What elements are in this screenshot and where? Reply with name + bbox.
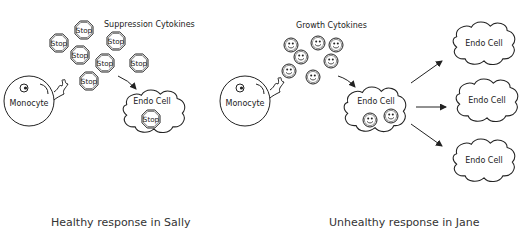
stop-sign-icon: Stop xyxy=(75,21,93,39)
stop-sign-icon: Stop xyxy=(142,110,160,128)
smiley-face-icon xyxy=(324,54,338,68)
smiley-face-icon xyxy=(329,38,343,52)
smiley-face-icon xyxy=(306,70,320,84)
svg-text:Stop: Stop xyxy=(51,39,68,48)
endo-cell-middle: Endo Cell xyxy=(456,79,518,122)
arrow-icon xyxy=(411,124,442,146)
monocyte-label: Monocyte xyxy=(10,99,49,108)
arrow-icon xyxy=(338,76,355,87)
svg-text:Stop: Stop xyxy=(81,77,98,86)
endo-cell-label: Endo Cell xyxy=(357,97,395,106)
smiley-face-icon xyxy=(294,50,308,64)
endo-cell-bottom: Endo Cell xyxy=(453,139,515,182)
smiley-face-icon xyxy=(311,36,325,50)
endo-cell-label: Endo Cell xyxy=(465,156,503,165)
caption-healthy: Healthy response in Sally xyxy=(51,216,191,229)
monocyte-right: Monocyte xyxy=(220,76,284,126)
stop-sign-icon: Stop xyxy=(130,54,148,72)
arrow-icon xyxy=(411,61,442,83)
stop-sign-icon: Stop xyxy=(96,54,114,72)
arrow-icon xyxy=(118,76,136,89)
diagram-canvas: Monocyte Suppression Cytokines Stop Stop… xyxy=(0,0,522,229)
endo-cell-label: Endo Cell xyxy=(465,39,503,48)
smiley-face-icon xyxy=(282,64,296,78)
smiley-face-icon xyxy=(363,113,377,127)
monocyte-left: Monocyte xyxy=(4,76,68,126)
right-panel: Monocyte Growth Cytokines Endo Cell Endo… xyxy=(220,21,518,229)
endo-cell-left: Endo Cell Stop xyxy=(123,90,185,133)
svg-text:Stop: Stop xyxy=(131,59,148,68)
smiley-face-icon xyxy=(384,109,398,123)
svg-text:Stop: Stop xyxy=(72,51,89,60)
stop-sign-icon: Stop xyxy=(71,46,89,64)
left-panel: Monocyte Suppression Cytokines Stop Stop… xyxy=(4,20,195,229)
smiley-face-icon xyxy=(284,38,298,52)
growth-cytokines-label: Growth Cytokines xyxy=(296,21,367,30)
endo-cell-center: Endo Cell xyxy=(344,87,406,132)
svg-text:Stop: Stop xyxy=(143,115,160,124)
endo-cell-label: Endo Cell xyxy=(468,96,506,105)
stop-sign-icon: Stop xyxy=(80,72,98,90)
svg-text:Stop: Stop xyxy=(97,59,114,68)
svg-text:Stop: Stop xyxy=(76,26,93,35)
svg-text:Stop: Stop xyxy=(108,37,125,46)
suppression-cytokines-label: Suppression Cytokines xyxy=(104,20,195,29)
monocyte-label: Monocyte xyxy=(226,99,265,108)
stop-sign-icon: Stop xyxy=(107,32,125,50)
endo-cell-label: Endo Cell xyxy=(133,97,171,106)
caption-unhealthy: Unhealthy response in Jane xyxy=(329,216,480,229)
endo-cell-top: Endo Cell xyxy=(453,22,515,65)
stop-sign-icon: Stop xyxy=(50,34,68,52)
